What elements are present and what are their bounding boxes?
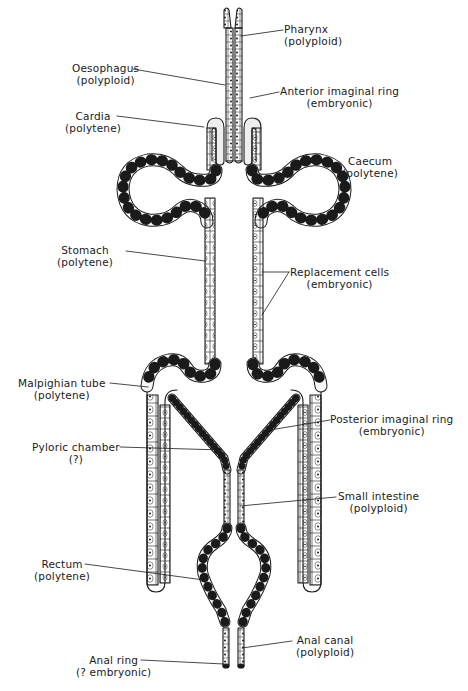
label-name: Anterior imaginal ring: [280, 85, 399, 97]
label-stomach: Stomach (polytene): [57, 244, 113, 268]
cardia-fold-left: [207, 118, 224, 170]
label-name: Rectum: [34, 558, 90, 570]
label-ploidy: (polyploid): [72, 74, 139, 86]
caecum-right: [252, 160, 345, 222]
label-ploidy: (polytene): [18, 389, 106, 401]
stomach-left-wall: [205, 198, 215, 364]
label-caecum: Caecum (polytene): [342, 155, 398, 179]
label-oesophagus: Oesophagus (polyploid): [72, 62, 139, 86]
label-ploidy: (? embryonic): [76, 666, 151, 678]
label-name: Oesophagus: [72, 62, 139, 74]
label-anal-ring: Anal ring (? embryonic): [76, 654, 151, 678]
label-name: Caecum: [342, 155, 398, 167]
pyloric-chamber-right: [241, 398, 296, 470]
label-name: Cardia: [65, 110, 121, 122]
label-ploidy: (polyploid): [338, 502, 419, 514]
label-pyloric-chamber: Pyloric chamber (?): [32, 441, 120, 465]
label-name: Replacement cells: [290, 266, 389, 278]
label-ploidy: (polytene): [65, 122, 121, 134]
label-ploidy: (polytene): [34, 570, 90, 582]
stomach-right-wall: [253, 198, 263, 364]
label-name: Small intestine: [338, 490, 419, 502]
small-intestine-shape: [224, 470, 244, 528]
label-malpighian-tube: Malpighian tube (polytene): [18, 377, 106, 401]
malpighian-tube-right: [291, 390, 321, 592]
label-ploidy: (polyploid): [296, 646, 354, 658]
label-ploidy: (embryonic): [330, 425, 453, 437]
cardia-fold-right: [244, 118, 261, 170]
label-pharynx: Pharynx (polyploid): [284, 23, 342, 47]
label-name: Malpighian tube: [18, 377, 106, 389]
label-cardia: Cardia (polytene): [65, 110, 121, 134]
label-ploidy: (?): [32, 453, 120, 465]
label-replacement-cells: Replacement cells (embryonic): [290, 266, 389, 290]
pharynx-shape: [224, 8, 242, 28]
label-name: Pharynx: [284, 23, 342, 35]
label-small-intestine: Small intestine (polyploid): [338, 490, 419, 514]
label-name: Anal canal: [296, 634, 354, 646]
label-ploidy: (polytene): [342, 167, 398, 179]
caecum-left: [123, 160, 216, 222]
label-name: Anal ring: [76, 654, 151, 666]
malpighian-tube-left: [147, 390, 177, 592]
label-posterior-imaginal-ring: Posterior imaginal ring (embryonic): [330, 413, 453, 437]
label-name: Posterior imaginal ring: [330, 413, 453, 425]
label-anterior-imaginal-ring: Anterior imaginal ring (embryonic): [280, 85, 399, 109]
label-anal-canal: Anal canal (polyploid): [296, 634, 354, 658]
oesophagus-shape: [226, 28, 242, 163]
label-name: Stomach: [57, 244, 113, 256]
anal-canal-shape: [223, 628, 244, 668]
label-name: Pyloric chamber: [32, 441, 120, 453]
label-rectum: Rectum (polytene): [34, 558, 90, 582]
label-ploidy: (embryonic): [280, 97, 399, 109]
label-ploidy: (polyploid): [284, 35, 342, 47]
rectum-shape: [202, 528, 266, 622]
label-ploidy: (embryonic): [290, 278, 389, 290]
pyloric-chamber-left: [172, 398, 227, 470]
label-ploidy: (polytene): [57, 256, 113, 268]
